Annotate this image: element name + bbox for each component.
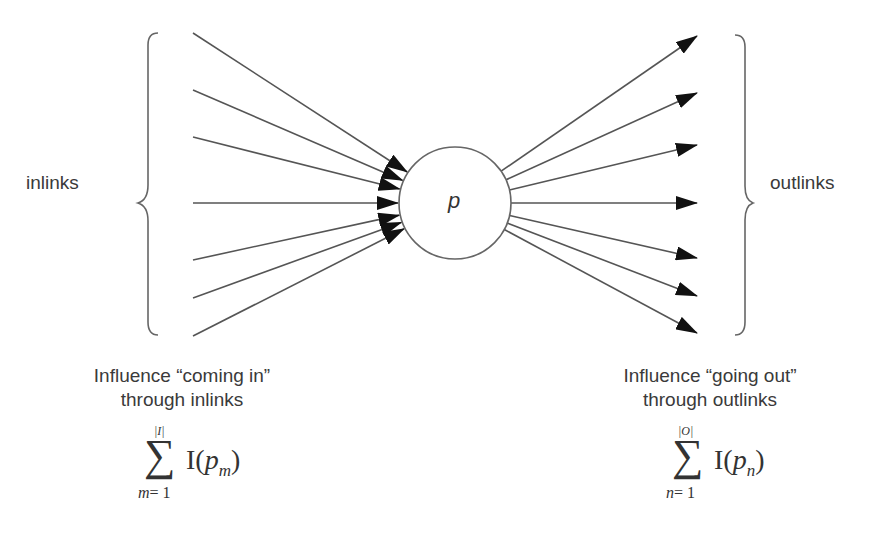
- sum-index: m: [138, 484, 150, 501]
- sum-lower-limit: m= 1: [138, 484, 171, 502]
- inlink-arrow: [193, 137, 400, 189]
- inlink-arrows: [193, 33, 407, 336]
- func-open: I(: [714, 444, 733, 475]
- outlinks-formula: |O| ∑ n= 1 I(pn): [664, 424, 794, 524]
- inlink-arrow: [193, 229, 404, 336]
- outlinks-caption-line1: Influence “going out”: [570, 364, 850, 388]
- func-open: I(: [186, 444, 205, 475]
- outlink-arrow: [506, 93, 697, 180]
- sigma-symbol: ∑: [144, 434, 175, 478]
- inlink-arrow: [193, 90, 403, 180]
- inlinks-caption-line2: through inlinks: [42, 388, 322, 412]
- outlink-arrows: [501, 36, 697, 333]
- inlink-arrow: [193, 33, 407, 172]
- func-arg-sub: m: [219, 461, 231, 480]
- inlinks-caption-line1: Influence “coming in”: [42, 364, 322, 388]
- func-arg-sub: n: [747, 461, 756, 480]
- inlinks-label: inlinks: [26, 172, 79, 194]
- outlink-arrow: [501, 36, 697, 171]
- influence-function: I(pn): [714, 444, 764, 481]
- sum-lower-limit: n= 1: [666, 484, 695, 502]
- sum-start: = 1: [674, 484, 695, 501]
- func-close: ): [231, 444, 240, 475]
- outlinks-caption: Influence “going out” through outlinks: [570, 364, 850, 412]
- left-brace: [138, 33, 158, 335]
- inlink-arrow: [193, 215, 399, 260]
- outlinks-label: outlinks: [770, 172, 834, 194]
- func-arg: p: [733, 444, 747, 475]
- sum-start: = 1: [150, 484, 171, 501]
- outlink-arrow: [504, 230, 697, 333]
- sum-index: n: [666, 484, 674, 501]
- outlink-arrow: [509, 145, 697, 190]
- sigma-symbol: ∑: [672, 434, 703, 478]
- inlinks-caption: Influence “coming in” through inlinks: [42, 364, 322, 412]
- right-brace: [735, 35, 753, 335]
- outlink-arrow: [507, 223, 697, 296]
- inlink-arrow: [193, 222, 401, 298]
- func-close: ): [755, 444, 764, 475]
- outlinks-caption-line2: through outlinks: [570, 388, 850, 412]
- page-node-label: p: [448, 188, 460, 214]
- outlink-arrow: [510, 215, 697, 258]
- func-arg: p: [205, 444, 219, 475]
- influence-function: I(pm): [186, 444, 240, 481]
- inlinks-formula: |I| ∑ m= 1 I(pm): [136, 424, 266, 524]
